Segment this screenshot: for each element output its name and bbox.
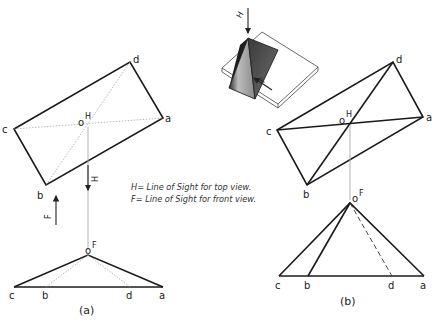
legend-line-f: F= Line of Sight for front view.	[131, 194, 256, 204]
vertex-label-a: a	[426, 112, 432, 123]
vertex-label-a: a	[165, 113, 171, 124]
arrow-f-label: F	[44, 214, 53, 219]
pictorial-arrow-h: H	[235, 8, 248, 33]
vertex-label-c: c	[266, 126, 272, 137]
base-label-a: a	[420, 280, 426, 291]
base-label-b: b	[42, 290, 48, 301]
orthographic-projection-diagram: H F c d a b o H H F	[0, 0, 436, 321]
vertex-label-c: c	[2, 124, 8, 135]
apex-label-f: F	[92, 241, 97, 250]
apex-marker: o	[339, 115, 345, 126]
apex-marker: o	[85, 245, 91, 256]
view-a-front-view: o F c b d a	[9, 241, 165, 301]
base-label-c: c	[9, 290, 15, 301]
view-a-top-view: c d a b o H	[2, 54, 171, 201]
base-label-a: a	[159, 290, 165, 301]
base-label-d: d	[126, 290, 132, 301]
legend: H= Line of Sight for top view. F= Line o…	[131, 182, 256, 204]
legend-line-h: H= Line of Sight for top view.	[131, 182, 251, 192]
base-label-c: c	[275, 280, 281, 291]
apex-marker: o	[352, 193, 358, 204]
vertex-label-d: d	[133, 54, 139, 65]
vertex-label-d: d	[396, 54, 402, 65]
view-a-arrow-f: F	[44, 196, 56, 225]
arrow-h-label: H	[235, 10, 246, 20]
arrow-h-label: H	[89, 176, 98, 182]
caption-a: (a)	[79, 304, 94, 317]
apex-label-h: H	[346, 110, 352, 119]
view-a-arrow-h: H	[88, 165, 98, 190]
pictorial-view: H F	[222, 8, 318, 108]
apex-marker: o	[78, 117, 84, 128]
vertex-label-b: b	[303, 189, 309, 200]
base-label-d: d	[388, 280, 394, 291]
apex-label-f: F	[359, 189, 364, 198]
vertex-label-b: b	[37, 190, 43, 201]
caption-b: (b)	[340, 295, 356, 308]
view-b-front-view: o F c b d a	[275, 189, 426, 291]
apex-label-h: H	[85, 112, 91, 121]
base-label-b: b	[304, 280, 310, 291]
